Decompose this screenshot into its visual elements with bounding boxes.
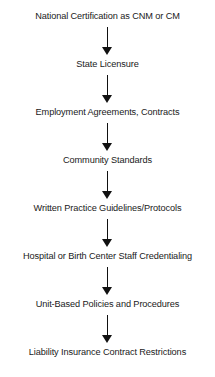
step-national-certification: National Certification as CNM or CM <box>0 10 215 22</box>
step-community-standards: Community Standards <box>0 154 215 166</box>
step-state-licensure: State Licensure <box>0 58 215 70</box>
down-arrow-icon <box>102 267 112 295</box>
down-arrow-icon <box>102 75 112 103</box>
step-practice-guidelines: Written Practice Guidelines/Protocols <box>0 202 215 214</box>
step-unit-policies: Unit-Based Policies and Procedures <box>0 298 215 310</box>
down-arrow-icon <box>102 315 112 343</box>
down-arrow-icon <box>102 123 112 151</box>
down-arrow-icon <box>102 219 112 247</box>
step-employment-agreements: Employment Agreements, Contracts <box>0 106 215 118</box>
down-arrow-icon <box>102 27 112 55</box>
step-staff-credentialing: Hospital or Birth Center Staff Credentia… <box>0 250 215 262</box>
down-arrow-icon <box>102 171 112 199</box>
step-liability-insurance: Liability Insurance Contract Restriction… <box>0 346 215 358</box>
